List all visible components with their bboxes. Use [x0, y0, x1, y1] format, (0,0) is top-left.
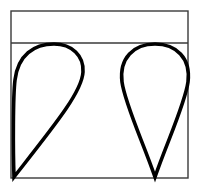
empty-top-band [11, 11, 188, 43]
figure-canvas [0, 0, 198, 191]
